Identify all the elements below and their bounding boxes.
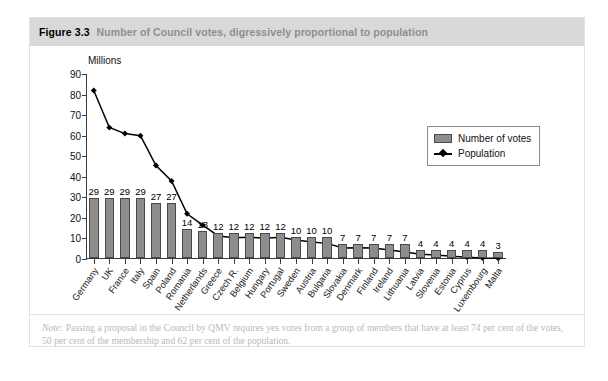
x-tick-mark <box>389 259 390 264</box>
figure-container: Figure 3.3 Number of Council votes, digr… <box>29 17 585 347</box>
legend-entry-population: Population <box>434 146 531 161</box>
bar-value-label: 12 <box>275 221 286 232</box>
bar-value-label: 10 <box>306 225 317 236</box>
bar-value-label: 12 <box>244 221 255 232</box>
x-tick-mark <box>280 259 281 264</box>
y-tick-label: 60 <box>70 130 81 141</box>
bar <box>447 250 457 258</box>
bar-value-label: 12 <box>260 221 271 232</box>
bar-value-label: 7 <box>371 232 376 243</box>
bar <box>353 244 363 258</box>
bar <box>322 237 332 258</box>
bar <box>167 203 177 259</box>
bar <box>198 231 208 258</box>
x-tick-mark <box>125 259 126 264</box>
x-tick-mark <box>172 259 173 264</box>
y-tick-mark <box>82 238 87 239</box>
bar-value-label: 10 <box>291 225 302 236</box>
y-tick-mark <box>82 115 87 116</box>
x-tick-mark <box>436 259 437 264</box>
legend-entry-votes: Number of votes <box>434 131 531 146</box>
x-tick-mark <box>140 259 141 264</box>
bar-value-label: 12 <box>228 221 239 232</box>
bar-value-label: 4 <box>418 238 423 249</box>
x-tick-mark <box>405 259 406 264</box>
bar <box>291 237 301 258</box>
y-tick-mark <box>82 259 87 260</box>
bar-value-label: 29 <box>135 186 146 197</box>
x-tick-mark <box>358 259 359 264</box>
bar-swatch-icon <box>434 134 452 143</box>
figure-caption: Number of Council votes, digressively pr… <box>97 26 428 38</box>
chart-legend: Number of votes Population <box>427 126 540 166</box>
bar <box>245 233 255 258</box>
x-tick-mark <box>156 259 157 264</box>
bar <box>276 233 286 258</box>
figure-note: Note: Passing a proposal in the Council … <box>42 321 572 347</box>
bar <box>229 233 239 258</box>
x-tick-mark <box>109 259 110 264</box>
x-tick-mark <box>483 259 484 264</box>
figure-header: Figure 3.3 Number of Council votes, digr… <box>30 18 584 46</box>
x-tick-mark <box>420 259 421 264</box>
bar-value-label: 29 <box>88 186 99 197</box>
legend-label-votes: Number of votes <box>458 133 531 144</box>
bar-value-label: 12 <box>213 221 224 232</box>
y-tick-label: 70 <box>70 110 81 121</box>
y-tick-label: 80 <box>70 89 81 100</box>
bar-value-label: 4 <box>464 238 469 249</box>
line-diamond-icon <box>434 149 452 158</box>
y-axis-unit-label: Millions <box>88 55 121 66</box>
note-divider <box>30 314 584 315</box>
bar <box>120 198 130 258</box>
bar-value-label: 27 <box>166 191 177 202</box>
bar <box>385 244 395 258</box>
y-tick-label: 10 <box>70 233 81 244</box>
x-tick-mark <box>265 259 266 264</box>
x-tick-mark <box>452 259 453 264</box>
bar-value-label: 7 <box>340 232 345 243</box>
bar <box>213 233 223 258</box>
x-tick-mark <box>296 259 297 264</box>
bar-value-label: 7 <box>402 232 407 243</box>
bar-value-label: 4 <box>480 238 485 249</box>
bar-value-label: 7 <box>387 232 392 243</box>
x-tick-mark <box>343 259 344 264</box>
x-tick-mark <box>203 259 204 264</box>
bar <box>400 244 410 258</box>
bar-value-label: 13 <box>197 219 208 230</box>
bar <box>369 244 379 258</box>
figure-number: Figure 3.3 <box>39 26 90 38</box>
bar <box>89 198 99 258</box>
legend-label-population: Population <box>458 148 505 159</box>
y-tick-mark <box>82 74 87 75</box>
y-tick-mark <box>82 197 87 198</box>
note-prefix: Note: <box>42 322 63 333</box>
x-tick-mark <box>467 259 468 264</box>
bar <box>431 250 441 258</box>
y-tick-label: 20 <box>70 212 81 223</box>
x-axis-category-label: Germany <box>70 266 100 303</box>
bar-value-label: 4 <box>449 238 454 249</box>
bar <box>260 233 270 258</box>
y-tick-label: 90 <box>70 69 81 80</box>
y-tick-mark <box>82 156 87 157</box>
bar-value-label: 14 <box>182 217 193 228</box>
bar <box>136 198 146 258</box>
bar <box>478 250 488 258</box>
y-tick-label: 0 <box>75 254 81 265</box>
chart-area: Millions 0102030405060708090292929292727… <box>30 46 584 314</box>
x-tick-mark <box>327 259 328 264</box>
bar <box>338 244 348 258</box>
y-tick-label: 50 <box>70 151 81 162</box>
bar-value-label: 3 <box>496 240 501 251</box>
y-tick-label: 30 <box>70 192 81 203</box>
x-tick-mark <box>498 259 499 264</box>
bar-value-label: 4 <box>433 238 438 249</box>
x-tick-mark <box>374 259 375 264</box>
y-tick-label: 40 <box>70 171 81 182</box>
bar-value-label: 27 <box>151 191 162 202</box>
bar-value-label: 29 <box>104 186 115 197</box>
plot-region: 0102030405060708090292929292727141312121… <box>86 74 506 259</box>
bar-value-label: 10 <box>322 225 333 236</box>
